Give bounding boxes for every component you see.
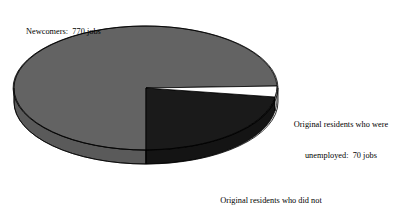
slice-label-newcomers-line1: Newcomers: 770 jobs (26, 27, 101, 37)
slice-label-unemployed-line1: Original residents who were (281, 120, 401, 130)
slice-label-newcomers: Newcomers: 770 jobs (26, 7, 101, 58)
slice-label-unemployed: Original residents who were unemployed: … (281, 100, 401, 182)
slice-label-nonparticipate: Original residents who did not participa… (201, 176, 341, 209)
slice-top-nonparticipate (146, 88, 275, 150)
pie-chart-figure: Newcomers: 770 jobs Original residents w… (0, 0, 405, 209)
slice-label-nonparticipate-line1: Original residents who did not (201, 196, 341, 206)
slice-label-unemployed-line2: unemployed: 70 jobs (281, 151, 401, 161)
